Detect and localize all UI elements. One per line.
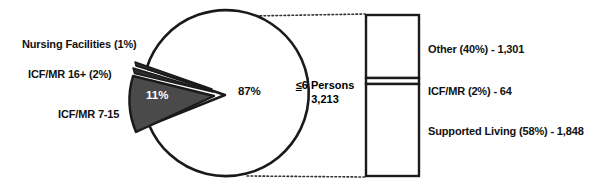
callout-line-1-text: 6 Persons	[302, 79, 355, 91]
pie-label-icfmr-16plus: ICF/MR 16+ (2%)	[28, 68, 112, 81]
callout-line-1: ≤6 Persons	[291, 78, 359, 92]
callout-line-2: 3,213	[291, 92, 359, 106]
connector-line-top	[252, 14, 365, 16]
pie-and-bar-figure: Nursing Facilities (1%) ICF/MR 16+ (2%) …	[0, 0, 611, 191]
pie-label-nursing-facilities: Nursing Facilities (1%)	[22, 38, 137, 51]
callout-six-persons: ≤6 Persons 3,213	[291, 78, 359, 106]
pie-value-label-87: 87%	[238, 85, 261, 98]
bar-segment-supported-living[interactable]	[366, 84, 419, 176]
connector-line-bottom	[247, 176, 365, 177]
bar-segment-other[interactable]	[366, 15, 419, 78]
pie-value-label-11: 11%	[146, 89, 168, 101]
pie-label-icfmr-7-15: ICF/MR 7-15	[58, 108, 119, 121]
bar-label-supported-living: Supported Living (58%) - 1,848	[428, 125, 584, 138]
bar-label-other: Other (40%) - 1,301	[428, 43, 524, 56]
bar-label-icfmr: ICF/MR (2%) - 64	[428, 85, 512, 98]
